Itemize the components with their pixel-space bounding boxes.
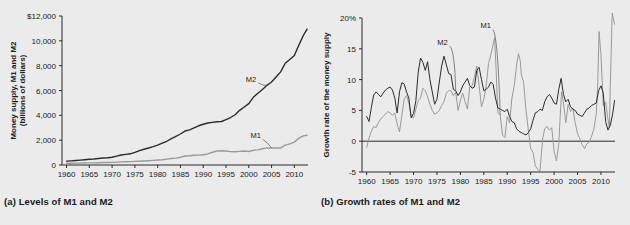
levels-chart-svg: Money supply, M1 and M2(billions of doll… <box>0 0 315 190</box>
annotation-leader-M1 <box>263 139 272 148</box>
x-tick-label: 1990 <box>498 177 516 186</box>
x-tick-label: 2000 <box>545 177 563 186</box>
series-line-M2 <box>367 56 615 135</box>
x-tick-label: 1985 <box>172 170 190 179</box>
x-tick-label: 1995 <box>522 177 540 186</box>
x-tick-label: 1975 <box>428 177 446 186</box>
x-tick-label: 2010 <box>592 177 610 186</box>
y-tick-label: 4,000 <box>36 111 57 120</box>
money-supply-figure: Money supply, M1 and M2(billions of doll… <box>0 0 630 225</box>
x-tick-label: 1990 <box>194 170 212 179</box>
caption-panel-a: (a) Levels of M1 and M2 <box>4 196 113 207</box>
y-tick-label: 8,000 <box>36 62 57 71</box>
x-tick-label: 1965 <box>381 177 399 186</box>
x-tick-label: 1970 <box>103 170 121 179</box>
x-tick-label: 1995 <box>217 170 235 179</box>
y-tick-label: 15 <box>347 45 356 54</box>
chart-panel-growth: Growth rate of the money supply-50510152… <box>315 0 630 225</box>
y-tick-label: $12,000 <box>27 12 56 21</box>
y-axis-title: Money supply, M1 and M2 <box>9 41 18 140</box>
x-tick-label: 1960 <box>358 177 376 186</box>
x-tick-label: 1975 <box>126 170 144 179</box>
chart-panel-levels: Money supply, M1 and M2(billions of doll… <box>0 0 315 225</box>
x-tick-label: 2000 <box>240 170 258 179</box>
x-tick-label: 1970 <box>405 177 423 186</box>
series-line-M2 <box>67 29 308 161</box>
y-tick-label: 20% <box>340 14 356 23</box>
y-tick-label: -5 <box>349 168 357 177</box>
y-tick-label: 10,000 <box>32 37 57 46</box>
y-tick-label: 5 <box>352 106 357 115</box>
series-label-M2: M2 <box>246 75 256 84</box>
series-label-M2: M2 <box>437 38 447 47</box>
y-axis-title: Growth rate of the money supply <box>322 32 331 157</box>
x-tick-label: 1980 <box>451 177 469 186</box>
growth-chart-svg: Growth rate of the money supply-50510152… <box>315 0 630 190</box>
y-tick-label: 0 <box>52 161 57 170</box>
y-tick-label: 10 <box>347 76 356 85</box>
x-tick-label: 1960 <box>58 170 76 179</box>
y-tick-label: 0 <box>352 137 357 146</box>
y-tick-label: 6,000 <box>36 87 57 96</box>
series-label-M1: M1 <box>250 131 260 140</box>
series-label-M1: M1 <box>480 21 490 30</box>
x-tick-label: 1965 <box>80 170 98 179</box>
x-tick-label: 2005 <box>569 177 587 186</box>
y-tick-label: 2,000 <box>36 136 57 145</box>
y-axis-title: (billions of dollars) <box>18 54 27 126</box>
x-tick-label: 2010 <box>285 170 303 179</box>
x-tick-label: 1980 <box>149 170 167 179</box>
series-line-M1 <box>67 135 308 163</box>
x-tick-label: 1985 <box>475 177 493 186</box>
series-line-M1 <box>367 13 615 171</box>
x-tick-label: 2005 <box>263 170 281 179</box>
annotation-leader-M2 <box>258 83 267 86</box>
caption-panel-b: (b) Growth rates of M1 and M2 <box>321 196 460 207</box>
